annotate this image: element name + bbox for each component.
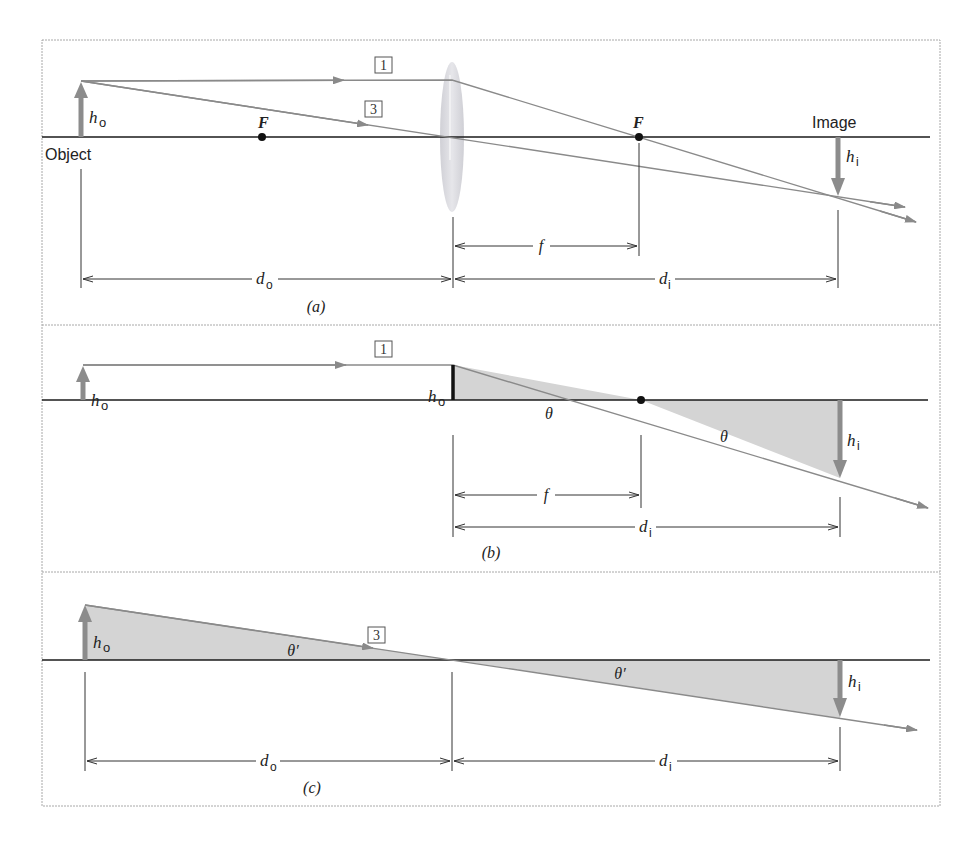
focal-label-right: F bbox=[632, 114, 644, 131]
svg-text:i: i bbox=[649, 526, 652, 540]
ray-3-end-arrow bbox=[870, 202, 905, 207]
ray-1-end-arrow bbox=[895, 498, 928, 508]
svg-text:h: h bbox=[89, 108, 98, 127]
f-label: f bbox=[539, 237, 546, 255]
do-label: d o bbox=[260, 751, 277, 774]
svg-text:o: o bbox=[270, 760, 277, 774]
ho-label: h o bbox=[89, 108, 106, 130]
do-label: d o bbox=[256, 269, 273, 292]
svg-text:d: d bbox=[260, 751, 269, 770]
svg-text:i: i bbox=[668, 278, 671, 292]
di-label: d i bbox=[659, 751, 672, 774]
hi-label: h i bbox=[847, 431, 860, 453]
image-label: Image bbox=[812, 114, 857, 131]
ray-3-label: 3 bbox=[373, 628, 380, 643]
svg-text:h: h bbox=[91, 391, 100, 410]
theta-left-label: θ bbox=[545, 405, 553, 422]
hi-label: h i bbox=[848, 672, 861, 694]
ray-1-label: 1 bbox=[380, 342, 387, 357]
svg-text:h: h bbox=[428, 387, 437, 406]
focal-point bbox=[637, 396, 645, 404]
ho-lens-label: h o bbox=[428, 387, 445, 409]
theta-prime-right-label: θ′ bbox=[614, 665, 626, 682]
svg-text:d: d bbox=[659, 751, 668, 770]
panel-a: 1 3 F F Object Image h o h i f d bbox=[42, 57, 930, 316]
svg-text:d: d bbox=[659, 269, 668, 288]
object-arrowhead-icon bbox=[76, 366, 90, 382]
ray-1-direction-arrow bbox=[81, 80, 344, 81]
focal-label-left: F bbox=[257, 114, 269, 131]
caption-a: (a) bbox=[307, 298, 326, 316]
shaded-triangle-left bbox=[453, 365, 641, 400]
shaded-triangle-right bbox=[641, 400, 840, 478]
svg-text:o: o bbox=[99, 115, 106, 130]
svg-text:o: o bbox=[266, 278, 273, 292]
svg-text:o: o bbox=[103, 640, 110, 655]
focal-point-left bbox=[258, 133, 266, 141]
panel-b: 1 h o h o θ θ h i f d i (b) bbox=[42, 341, 928, 562]
svg-text:d: d bbox=[639, 517, 648, 536]
theta-right-label: θ bbox=[720, 428, 728, 445]
ray-1-label: 1 bbox=[380, 58, 387, 73]
svg-text:h: h bbox=[847, 431, 856, 450]
hi-label: h i bbox=[846, 147, 859, 169]
panel-c: 3 h o θ′ θ′ h i d o d i (c) bbox=[42, 605, 930, 797]
ho-label: h o bbox=[91, 391, 108, 413]
svg-text:o: o bbox=[438, 394, 445, 409]
ray-1 bbox=[81, 80, 916, 222]
svg-text:o: o bbox=[101, 398, 108, 413]
object-arrowhead-icon bbox=[74, 82, 88, 98]
svg-text:i: i bbox=[856, 155, 859, 169]
caption-c: (c) bbox=[303, 779, 321, 797]
ray-3-label: 3 bbox=[370, 102, 377, 117]
di-label: d i bbox=[639, 517, 652, 540]
svg-text:h: h bbox=[846, 147, 855, 166]
f-label: f bbox=[544, 486, 551, 504]
svg-text:i: i bbox=[858, 680, 861, 694]
ray-3-end-arrow bbox=[884, 725, 917, 730]
svg-text:i: i bbox=[857, 439, 860, 453]
lens-diagram-figure: 1 3 F F Object Image h o h i f d bbox=[0, 0, 974, 841]
caption-b: (b) bbox=[482, 544, 501, 562]
svg-text:h: h bbox=[93, 633, 102, 652]
svg-text:h: h bbox=[848, 672, 857, 691]
object-label: Object bbox=[45, 146, 92, 163]
di-label: d i bbox=[659, 269, 671, 292]
focal-point-right bbox=[635, 133, 643, 141]
ray-1-end-arrow bbox=[880, 211, 916, 222]
ray-3-direction-arrow bbox=[81, 81, 368, 125]
svg-text:i: i bbox=[669, 760, 672, 774]
theta-prime-left-label: θ′ bbox=[287, 642, 299, 659]
image-arrowhead-icon bbox=[831, 178, 845, 196]
svg-text:d: d bbox=[256, 269, 265, 288]
